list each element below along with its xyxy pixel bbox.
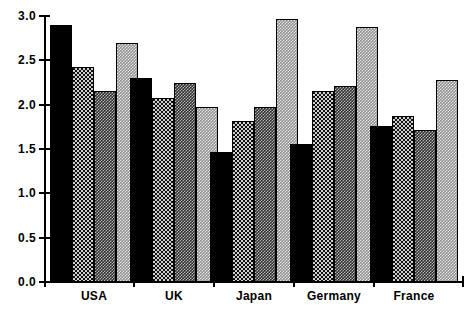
bar xyxy=(50,25,72,282)
bar xyxy=(392,116,414,282)
bar-group xyxy=(370,16,458,282)
bar-group xyxy=(210,16,298,282)
bar-chart: 0.00.51.01.52.02.53.0 USAUKJapanGermanyF… xyxy=(0,0,470,319)
bar xyxy=(174,83,196,282)
x-axis-category-label: Japan xyxy=(236,290,272,302)
y-axis-tick-label: 1.0 xyxy=(0,187,36,199)
bar xyxy=(436,80,458,282)
y-axis-tick-label: 0.0 xyxy=(0,276,36,288)
bar xyxy=(210,152,232,282)
bar xyxy=(152,98,174,282)
plot-area xyxy=(44,16,464,282)
x-axis-category-label: France xyxy=(393,290,434,302)
bar xyxy=(290,144,312,282)
x-axis-category-label: USA xyxy=(81,290,107,302)
y-axis-tick-label: 0.5 xyxy=(0,232,36,244)
x-axis-category-label: Germany xyxy=(307,290,361,302)
bar xyxy=(72,67,94,282)
y-axis-tick-label: 1.5 xyxy=(0,143,36,155)
bar-group xyxy=(130,16,218,282)
y-axis-tick-label: 2.0 xyxy=(0,99,36,111)
bar xyxy=(94,91,116,282)
bar xyxy=(370,126,392,282)
y-axis-tick-label: 2.5 xyxy=(0,54,36,66)
x-axis-category-label: UK xyxy=(165,290,183,302)
bar xyxy=(130,78,152,282)
bar xyxy=(312,91,334,282)
bar-group xyxy=(50,16,138,282)
y-axis-tick-label: 3.0 xyxy=(0,10,36,22)
bar xyxy=(334,86,356,282)
bar xyxy=(254,107,276,282)
bar-group xyxy=(290,16,378,282)
bar xyxy=(232,121,254,282)
bar xyxy=(414,130,436,282)
